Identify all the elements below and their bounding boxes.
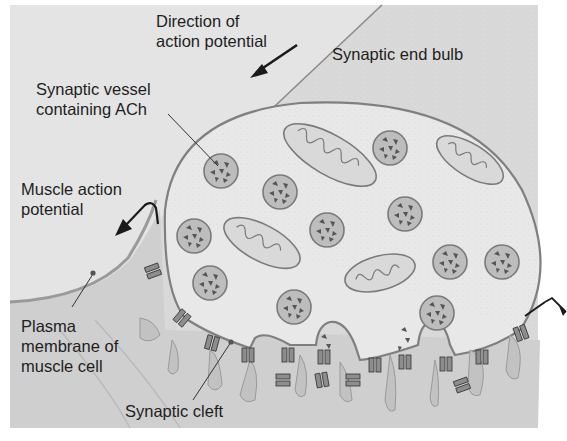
- label-synaptic-vesicle: Synaptic vessel containing ACh: [36, 79, 151, 119]
- label-plasma-membrane: Plasma membrane of muscle cell: [21, 316, 118, 376]
- label-muscle-action-potential: Muscle action potential: [21, 179, 122, 219]
- label-synaptic-cleft: Synaptic cleft: [125, 401, 223, 421]
- label-synaptic-end-bulb: Synaptic end bulb: [332, 44, 463, 64]
- label-direction-of-action-potential: Direction of action potential: [156, 11, 267, 51]
